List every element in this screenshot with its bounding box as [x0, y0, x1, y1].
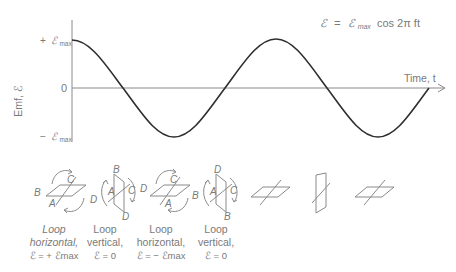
loop-7-horizontal [355, 180, 394, 205]
caption-2: Loop vertical, ℰ = 0 [75, 223, 135, 262]
caption-2-line1: Loop [75, 223, 135, 236]
caption-4-line3: ℰ = 0 [186, 249, 246, 262]
loop-4-label-b: B [224, 211, 231, 222]
loop-1-label-c: C [67, 174, 75, 185]
loop-2-label-d: D [122, 211, 129, 222]
caption-2-line2: vertical, [75, 236, 135, 249]
loop-2-label-b: B [113, 164, 120, 175]
x-axis-label: Time, t [404, 72, 436, 84]
loop-2-label-a: A [107, 186, 115, 197]
caption-4-line2: vertical, [186, 236, 246, 249]
loop-1-label-d: D [90, 194, 97, 205]
loop-4-label-d: D [214, 164, 221, 175]
caption-3-line1: Loop [131, 223, 191, 236]
caption-3: Loop horizontal, ℰ = − ℰmax [131, 223, 191, 262]
caption-4: Loop vertical, ℰ = 0 [186, 223, 246, 262]
loop-2-label-c: C [128, 185, 136, 196]
caption-3-line3: ℰ = − ℰmax [131, 249, 191, 262]
loop-5-horizontal [251, 180, 290, 205]
loop-4-label-c: C [230, 185, 238, 196]
loop-1-label-a: A [48, 198, 56, 209]
loop-3-label-c: C [170, 174, 178, 185]
y-axis-label: Emf, ℰ [12, 85, 24, 117]
y-tick-minus-max: − ℰ max [40, 131, 72, 143]
y-tick-plus-max: + ℰ max [40, 35, 72, 47]
loop-4-label-a: A [209, 186, 217, 197]
caption-2-line3: ℰ = 0 [75, 249, 135, 262]
loop-1-label-b: B [34, 187, 41, 198]
y-tick-zero: 0 [61, 82, 67, 94]
equation: ℰ = ℰ max cos 2π ft [320, 17, 420, 31]
caption-4-line1: Loop [186, 223, 246, 236]
loop-3-label-b: B [192, 190, 199, 201]
loop-6-vertical [312, 173, 330, 213]
loop-3-label-a: A [164, 198, 172, 209]
loop-3-label-d: D [140, 183, 147, 194]
caption-3-line2: horizontal, [131, 236, 191, 249]
